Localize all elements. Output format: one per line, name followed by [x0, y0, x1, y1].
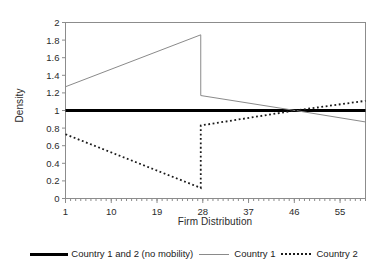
plot-area: 00.20.40.60.811.21.41.61.821101928374655 — [0, 0, 392, 240]
y-axis-tick-label: 0.4 — [46, 158, 59, 169]
y-axis-tick-label: 1 — [54, 105, 59, 116]
x-axis-tick-label: 1 — [63, 206, 68, 217]
y-axis-tick-label: 1.6 — [46, 52, 59, 63]
x-axis-title: Firm Distribution — [65, 216, 365, 227]
legend-item-label: Country 2 — [313, 249, 361, 259]
chart-legend: Country 1 and 2 (no mobility) Country 1 … — [0, 243, 392, 265]
chart-figure: Density 00.20.40.60.811.21.41.61.8211019… — [0, 0, 392, 277]
x-axis-title-label: Firm Distribution — [178, 216, 253, 227]
thick-solid-line-swatch — [30, 250, 68, 259]
y-axis-tick-label: 0 — [54, 193, 59, 204]
y-axis-tick-label: 1.8 — [46, 35, 59, 46]
legend-item-country-1: Country 1 — [197, 249, 279, 259]
series-country-1-line — [66, 35, 366, 122]
legend-item-country-2: Country 2 — [279, 249, 361, 259]
legend-item-label: Country 1 and 2 (no mobility) — [68, 249, 197, 259]
y-axis-tick-label: 1.2 — [46, 87, 59, 98]
y-axis-tick-label: 1.4 — [46, 70, 59, 81]
legend-item-no-mobility: Country 1 and 2 (no mobility) — [30, 249, 197, 259]
thin-solid-line-swatch — [197, 250, 231, 259]
series-country-2-line — [66, 101, 366, 188]
x-axis-tick-label: 55 — [335, 206, 346, 217]
y-axis-tick-label: 0.8 — [46, 123, 59, 134]
y-axis-tick-label: 2 — [54, 17, 59, 28]
x-axis-tick-label: 46 — [289, 206, 300, 217]
x-axis-tick-label: 19 — [152, 206, 163, 217]
x-axis-tick-label: 28 — [197, 206, 208, 217]
x-axis-tick-label: 10 — [106, 206, 117, 217]
legend-item-label: Country 1 — [231, 249, 279, 259]
dotted-line-swatch — [279, 250, 313, 259]
y-axis-tick-label: 0.6 — [46, 140, 59, 151]
x-axis-tick-label: 37 — [243, 206, 254, 217]
y-axis-tick-label: 0.2 — [46, 175, 59, 186]
